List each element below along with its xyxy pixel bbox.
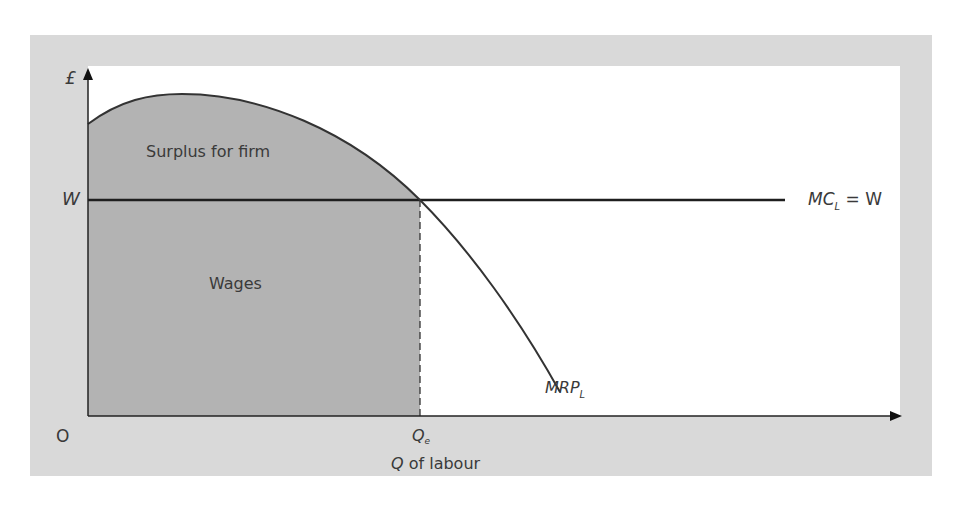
w-label: W (62, 188, 80, 209)
qe-main: Q (412, 426, 425, 445)
mc-sub: L (835, 201, 841, 212)
surplus-label: Surplus for firm (146, 142, 270, 161)
labour-demand-diagram (0, 0, 953, 526)
mc-label: MCL = W (808, 189, 882, 209)
mc-main: MC (808, 189, 835, 209)
wages-label: Wages (209, 274, 262, 293)
mrp-label: MRPL (545, 378, 585, 397)
qe-label: Qe (412, 426, 430, 445)
qe-sub: e (425, 436, 431, 446)
mc-suffix: = W (840, 189, 882, 209)
x-axis-q: Q (391, 454, 404, 473)
x-axis-label: Q of labour (391, 454, 480, 473)
y-axis-label: £ (65, 68, 76, 88)
mrp-sub: L (580, 389, 586, 400)
origin-label: O (56, 426, 69, 446)
mrp-main: MRP (545, 378, 580, 397)
